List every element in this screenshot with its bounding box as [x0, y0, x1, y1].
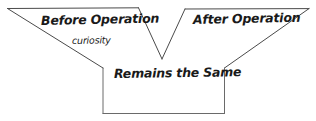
label-before-operation: Before Operation [41, 13, 159, 28]
label-remains-the-same: Remains the Same [114, 66, 242, 80]
left-wing-top-edge [8, 8, 139, 9]
notch-right-arm [162, 9, 185, 59]
diagram-canvas: Before Operation curiosity After Operati… [0, 0, 316, 121]
label-after-operation: After Operation [193, 12, 301, 27]
label-curiosity: curiosity [72, 35, 111, 45]
